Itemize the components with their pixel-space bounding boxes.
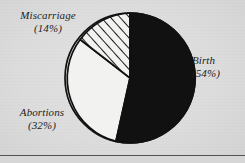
slice-label-abortions-name: Abortions [20,106,64,118]
page-bottom-margin [0,156,245,163]
pie-chart-figure: Miscarriage (14%) Abortions (32%) Birth … [0,0,245,163]
slice-label-miscarriage: Miscarriage (14%) [11,9,85,34]
slice-label-miscarriage-name: Miscarriage [20,9,75,21]
slice-label-birth: Birth (54%) [192,54,220,79]
slice-label-abortions: Abortions (32%) [6,106,78,131]
slice-label-birth-name: Birth [192,54,215,66]
slice-label-abortions-percent: (32%) [6,119,78,132]
slice-label-miscarriage-percent: (14%) [11,22,85,35]
slice-label-birth-percent: (54%) [192,67,220,80]
